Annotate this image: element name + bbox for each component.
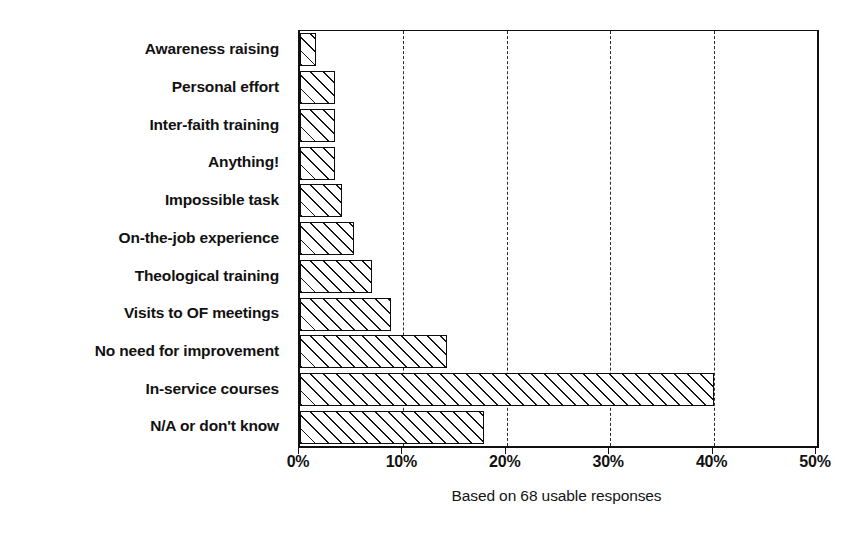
category-axis-labels: Awareness raising Personal effort Inter-… — [0, 30, 288, 445]
bar-0 — [300, 33, 316, 66]
bar-chart-figure: Awareness raising Personal effort Inter-… — [0, 0, 867, 542]
category-label: No need for improvement — [0, 332, 288, 370]
x-tick-label-40: 40% — [696, 452, 727, 471]
plot-inner — [300, 31, 817, 446]
bar-row — [300, 408, 817, 446]
bar-2 — [300, 109, 335, 142]
bar-row — [300, 144, 817, 182]
bar-row — [300, 295, 817, 333]
bar-row — [300, 182, 817, 220]
x-tick-label-50: 50% — [799, 452, 830, 471]
bar-4 — [300, 184, 342, 217]
category-label: Awareness raising — [0, 30, 288, 68]
bar-row — [300, 31, 817, 69]
category-label: On-the-job experience — [0, 219, 288, 257]
bar-1 — [300, 71, 335, 104]
bar-row — [300, 257, 817, 295]
bar-row — [300, 333, 817, 371]
category-label: Theological training — [0, 256, 288, 294]
category-label: N/A or don't know — [0, 407, 288, 445]
plot-area — [298, 30, 819, 448]
category-label: In-service courses — [0, 370, 288, 408]
x-tick-label-0: 0% — [287, 452, 310, 471]
bar-7 — [300, 298, 391, 331]
chart-caption: Based on 68 usable responses — [298, 487, 815, 505]
category-label: Visits to OF meetings — [0, 294, 288, 332]
x-tick-label-20: 20% — [489, 452, 520, 471]
x-axis-tick-labels: 0%10%20%30%40%50% — [298, 452, 815, 478]
category-label: Impossible task — [0, 181, 288, 219]
bar-row — [300, 106, 817, 144]
bar-series — [300, 31, 817, 446]
category-label: Anything! — [0, 143, 288, 181]
bar-row — [300, 371, 817, 409]
bar-8 — [300, 335, 447, 368]
bar-5 — [300, 222, 354, 255]
bar-row — [300, 220, 817, 258]
category-label: Inter-faith training — [0, 105, 288, 143]
x-tick-label-10: 10% — [386, 452, 417, 471]
bar-9 — [300, 373, 714, 406]
bar-3 — [300, 147, 335, 180]
category-label: Personal effort — [0, 68, 288, 106]
x-tick-label-30: 30% — [592, 452, 623, 471]
bar-6 — [300, 260, 372, 293]
bar-row — [300, 69, 817, 107]
bar-10 — [300, 411, 484, 444]
